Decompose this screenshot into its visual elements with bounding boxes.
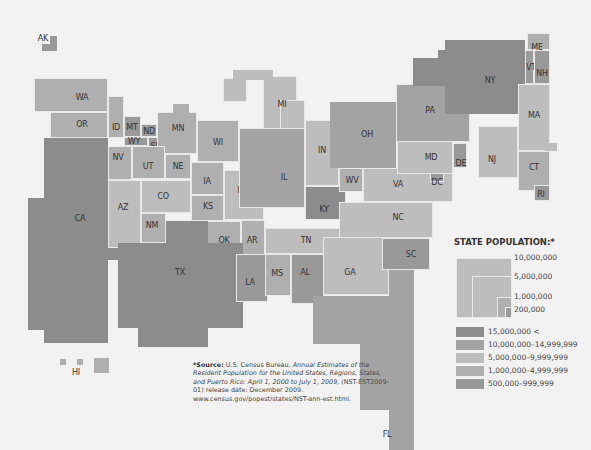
label-nv: NV	[112, 153, 123, 162]
legend-title: STATE POPULATION:*	[454, 237, 555, 247]
label-mn: MN	[172, 124, 185, 133]
label-fl: FL	[383, 430, 392, 439]
label-tn: TN	[301, 236, 311, 245]
label-5m-10m: 5,000,000–9,999,999	[488, 353, 568, 362]
label-la: LA	[245, 278, 255, 287]
label-az: AZ	[118, 203, 129, 212]
tx-south	[138, 322, 208, 347]
label-in: IN	[318, 146, 326, 155]
source-note: *Source: U.S. Census Bureau, Annual Esti…	[193, 361, 393, 403]
label-oh: OH	[361, 130, 373, 139]
swatch-15m-plus	[456, 327, 484, 337]
label-nd: ND	[143, 127, 155, 136]
label-nm: NM	[146, 221, 159, 230]
swatch-10m-15m	[456, 340, 484, 350]
source-prefix: *Source:	[193, 361, 224, 369]
state-hi-3	[94, 358, 109, 373]
label-nc: NC	[392, 213, 403, 222]
label-hi: HI	[72, 368, 80, 377]
state-nv	[108, 146, 132, 180]
label-15m-plus: 15,000,000 <	[488, 327, 540, 336]
mn-top	[173, 104, 189, 114]
ma-cape	[545, 143, 557, 151]
state-hi-2	[77, 359, 83, 365]
size-square-200k	[505, 307, 512, 318]
label-va: VA	[393, 180, 403, 189]
label-ne: NE	[173, 162, 184, 171]
label-co: CO	[157, 192, 168, 201]
state-nc	[339, 202, 433, 238]
swatch-5m-10m	[456, 353, 484, 363]
ny-west	[413, 58, 453, 86]
label-al: AL	[300, 268, 310, 277]
swatch-500k-1m	[456, 379, 484, 389]
label-wy: WY	[128, 137, 140, 146]
label-wv: WV	[346, 176, 359, 185]
label-ga: GA	[344, 268, 355, 277]
label-ia: IA	[203, 177, 210, 186]
label-wi: WI	[213, 138, 223, 147]
state-az	[108, 180, 141, 248]
label-ca: CA	[75, 214, 86, 223]
label-mt: MT	[126, 123, 137, 132]
state-hi-1	[60, 359, 66, 365]
label-de: DE	[456, 159, 467, 168]
swatch-1m-5m	[456, 366, 484, 376]
mi-upper	[223, 78, 247, 102]
label-or: OR	[76, 120, 87, 129]
ca-west	[28, 198, 68, 330]
tick-5m: 5,000,000	[514, 272, 552, 281]
tx-panhandle	[166, 221, 208, 251]
mi-top	[233, 70, 273, 80]
label-me: ME	[531, 43, 543, 52]
label-10m-15m: 10,000,000–14,999,999	[488, 340, 578, 349]
label-id: ID	[112, 123, 120, 132]
label-ky: KY	[319, 205, 328, 214]
label-dc: DC	[431, 178, 442, 187]
label-ri: RI	[537, 190, 545, 199]
state-id	[108, 96, 124, 138]
tick-10m: 10,000,000	[514, 253, 557, 262]
tick-200k: 200,000	[514, 305, 545, 314]
label-ut: UT	[143, 162, 153, 171]
state-il	[239, 128, 305, 208]
label-1m-5m: 1,000,000–4,999,999	[488, 366, 568, 375]
label-il: IL	[281, 173, 287, 182]
label-ks: KS	[203, 202, 213, 211]
label-sc: SC	[406, 250, 416, 259]
tick-1m: 1,000,000	[514, 292, 552, 301]
state-tx	[118, 243, 243, 328]
label-ny: NY	[485, 76, 495, 85]
label-nj: NJ	[488, 155, 496, 164]
label-500k-1m: 500,000–999,999	[488, 379, 554, 388]
label-ms: MS	[271, 269, 283, 278]
label-mi: MI	[278, 100, 287, 109]
label-ma: MA	[528, 111, 540, 120]
state-nj	[478, 126, 518, 178]
source-agency: U.S. Census Bureau,	[224, 361, 293, 369]
label-md: MD	[425, 153, 438, 162]
label-tx: TX	[175, 268, 185, 277]
state-wa	[34, 78, 108, 112]
source-url: www.census.gov/popest/states/NST-ann-est…	[193, 395, 351, 403]
label-ar: AR	[247, 236, 258, 245]
ny-step	[438, 50, 458, 60]
label-wa: WA	[76, 93, 89, 102]
state-ga	[323, 237, 389, 295]
label-pa: PA	[425, 106, 434, 115]
state-nh	[534, 50, 550, 84]
label-ct: CT	[529, 163, 539, 172]
label-nh: NH	[536, 69, 548, 78]
label-ak: AK	[38, 34, 48, 43]
